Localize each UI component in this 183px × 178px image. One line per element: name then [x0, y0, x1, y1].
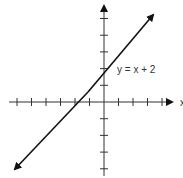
x-axis-label: x — [180, 97, 183, 108]
line-y-equals-x-plus-2 — [15, 15, 153, 169]
equation-label: y = x + 2 — [117, 64, 156, 75]
y-axis — [100, 6, 108, 176]
chart: y = x + 2 x — [0, 0, 183, 178]
x-axis — [9, 98, 172, 106]
